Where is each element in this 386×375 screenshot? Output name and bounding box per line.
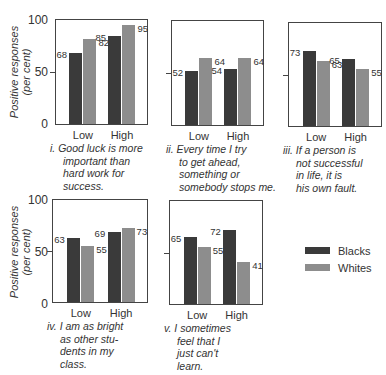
caption-line: v. I sometimes — [164, 322, 288, 335]
bar-whites-high — [238, 58, 251, 125]
caption-line: in life, it is — [283, 169, 386, 182]
caption-line: hard work for — [50, 167, 173, 180]
caption-line: something or — [166, 168, 289, 181]
value-label-blacks-high: 69 — [95, 228, 106, 239]
bar-whites-low — [317, 61, 330, 126]
value-label-blacks-high: 65 — [329, 55, 340, 66]
y-tickmark-50 — [47, 251, 53, 252]
y-axis-label-line1: Positive responses — [8, 26, 20, 118]
bar-blacks-high — [108, 36, 121, 124]
panel-caption: iii. If a person isnot successfulin life… — [283, 144, 386, 194]
x-category-high: High — [217, 309, 257, 321]
bar-whites-high — [122, 25, 135, 124]
caption-line: to get ahead, — [166, 156, 289, 169]
bar-whites-low — [199, 58, 212, 125]
value-label-blacks-high: 85 — [95, 32, 106, 43]
bar-blacks-low — [185, 71, 198, 125]
panel-caption: iv. I am as brightas other stu-dents in … — [47, 320, 173, 370]
caption-line: his own fault. — [283, 182, 386, 195]
x-category-low: Low — [179, 130, 219, 142]
bar-blacks-high — [224, 69, 237, 125]
value-label-whites-high: 41 — [252, 260, 263, 271]
x-category-low: Low — [61, 307, 101, 319]
caption-line: iii. If a person is — [283, 144, 386, 157]
y-tickmark-50 — [166, 73, 172, 74]
value-label-whites-high: 95 — [137, 23, 148, 34]
y-tick-0: 0 — [24, 117, 48, 131]
x-category-low: Low — [63, 129, 103, 141]
caption-line: dents in my — [47, 345, 173, 358]
panel-caption: i. Good luck is moreimportant thanhard w… — [50, 142, 173, 192]
panel-caption: ii. Every time I tryto get ahead,somethi… — [166, 143, 289, 193]
panel-caption: v. I sometimesfeel that Ijust can'tlearn… — [164, 322, 288, 372]
value-label-whites-low: 55 — [213, 245, 224, 256]
legend-label-blacks: Blacks — [338, 245, 370, 257]
caption-line: learn. — [164, 360, 288, 373]
value-label-blacks-low: 63 — [54, 234, 65, 245]
caption-line: iv. I am as bright — [47, 320, 173, 333]
bar-blacks-low — [67, 238, 80, 302]
x-category-low: Low — [177, 309, 217, 321]
value-label-blacks-low: 68 — [56, 49, 67, 60]
value-label-blacks-high: 72 — [210, 226, 221, 237]
legend-label-whites: Whites — [338, 262, 372, 274]
y-axis-label-line1: Positive responses — [8, 206, 20, 298]
value-label-whites-high: 55 — [371, 67, 382, 78]
caption-line: somebody stops me. — [166, 181, 289, 194]
value-label-blacks-low: 65 — [171, 233, 182, 244]
caption-line: just can't — [164, 347, 288, 360]
caption-line: class. — [47, 358, 173, 371]
value-label-whites-high: 73 — [137, 226, 148, 237]
caption-line: as other stu- — [47, 333, 173, 346]
y-tickmark-50 — [164, 253, 170, 254]
x-category-high: High — [102, 129, 142, 141]
bar-blacks-low — [69, 53, 82, 124]
caption-line: ii. Every time I try — [166, 143, 289, 156]
caption-line: i. Good luck is more — [50, 142, 173, 155]
bar-blacks-high — [223, 230, 236, 304]
legend-swatch-blacks — [305, 247, 330, 254]
bar-whites-high — [237, 262, 250, 304]
y-tick-50: 50 — [24, 245, 48, 259]
legend-item-blacks: Blacks — [305, 243, 372, 258]
value-label-whites-low: 55 — [96, 244, 107, 255]
x-category-high: High — [336, 131, 376, 143]
value-label-whites-high: 64 — [253, 56, 264, 67]
value-label-blacks-high: 54 — [211, 65, 222, 76]
caption-line: feel that I — [164, 335, 288, 348]
bar-blacks-low — [303, 51, 316, 126]
bar-blacks-low — [184, 237, 197, 304]
legend-swatch-whites — [305, 264, 330, 271]
y-tick-50: 50 — [24, 65, 48, 79]
legend-item-whites: Whites — [305, 260, 372, 275]
value-label-blacks-low: 52 — [172, 67, 183, 78]
legend: Blacks Whites — [305, 243, 372, 277]
x-category-high: High — [101, 307, 141, 319]
bar-whites-high — [356, 69, 369, 126]
bar-blacks-high — [342, 59, 355, 126]
y-tickmark-50 — [283, 75, 289, 76]
y-tick-100: 100 — [24, 193, 48, 207]
bar-blacks-high — [108, 232, 121, 302]
y-tick-0: 0 — [24, 297, 48, 311]
caption-line: not successful — [283, 157, 386, 170]
y-tick-100: 100 — [24, 13, 48, 27]
bar-whites-low — [81, 246, 94, 302]
bar-whites-low — [198, 247, 211, 304]
y-tickmark-50 — [50, 72, 56, 73]
caption-line: success. — [50, 180, 173, 193]
x-category-high: High — [218, 130, 258, 142]
x-category-low: Low — [296, 131, 336, 143]
value-label-blacks-low: 73 — [290, 47, 301, 58]
caption-line: important than — [50, 155, 173, 168]
bar-whites-high — [122, 228, 135, 302]
bar-whites-low — [83, 39, 96, 124]
